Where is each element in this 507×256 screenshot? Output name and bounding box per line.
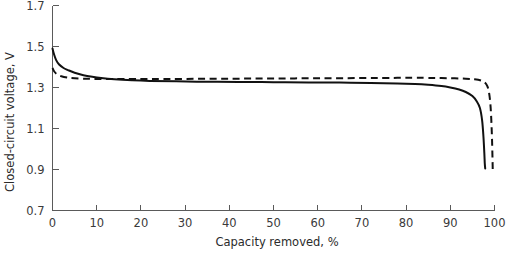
x-tick-label: 10	[89, 216, 104, 230]
chart-figure: 0102030405060708090100 0.70.91.11.31.51.…	[0, 0, 507, 256]
x-tick-label: 50	[266, 216, 281, 230]
x-tick-label: 20	[134, 216, 149, 230]
x-tick-label: 60	[310, 216, 325, 230]
y-tick-marks	[53, 6, 59, 211]
x-tick-label: 70	[355, 216, 370, 230]
x-axis-title: Capacity removed, %	[215, 235, 338, 249]
chart-canvas: 0102030405060708090100 0.70.91.11.31.51.…	[0, 0, 507, 256]
x-tick-label: 90	[443, 216, 458, 230]
y-axis-title: Closed-circuit voltage, V	[3, 52, 17, 192]
y-tick-label: 0.9	[26, 163, 44, 177]
y-tick-label: 1.5	[26, 40, 44, 54]
x-tick-label: 0	[49, 216, 56, 230]
x-tick-label: 80	[399, 216, 414, 230]
plot-axes	[53, 6, 495, 211]
x-tick-label: 30	[178, 216, 193, 230]
x-tick-marks	[53, 205, 495, 211]
y-tick-label: 1.3	[26, 81, 44, 95]
y-tick-labels: 0.70.91.11.31.51.7	[26, 0, 44, 218]
x-tick-labels: 0102030405060708090100	[49, 216, 506, 230]
x-tick-label: 40	[222, 216, 237, 230]
y-tick-label: 1.1	[26, 122, 44, 136]
y-tick-label: 0.7	[26, 204, 44, 218]
plot-series	[53, 49, 493, 170]
y-tick-label: 1.7	[26, 0, 44, 13]
x-tick-label: 100	[484, 216, 506, 230]
series-dashed-line	[53, 68, 493, 169]
axis-lines	[53, 6, 495, 211]
series-solid-line	[53, 49, 486, 169]
